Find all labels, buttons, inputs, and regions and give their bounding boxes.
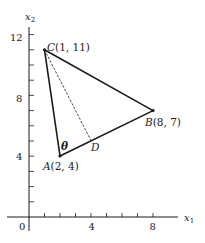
point-a xyxy=(58,154,61,157)
x-axis-label: x1 xyxy=(184,212,194,225)
segment-ab xyxy=(60,111,153,156)
y-tick-label-12: 12 xyxy=(10,32,23,43)
y-axis-label: x2 xyxy=(25,11,35,24)
point-d-label: D xyxy=(90,141,100,153)
point-a-label: A(2, 4) xyxy=(42,160,79,172)
segment-bc xyxy=(45,50,154,111)
point-b-label: B(8, 7) xyxy=(144,116,181,128)
triangle-diagram: 0 4 8 4 8 12 x1 x2 C(1, 11) B(8, 7) A(2,… xyxy=(0,0,205,243)
x-tick-label-8: 8 xyxy=(150,221,156,232)
y-tick-label-8: 8 xyxy=(16,93,22,104)
y-axis-ticks xyxy=(29,35,34,202)
x-tick-label-4: 4 xyxy=(89,221,95,232)
point-c-label: C(1, 11) xyxy=(47,41,90,53)
origin-label: 0 xyxy=(19,221,25,232)
y-tick-label-4: 4 xyxy=(16,151,22,162)
x-axis-ticks xyxy=(45,213,154,217)
point-b xyxy=(151,109,154,112)
point-c xyxy=(43,48,46,51)
angle-theta-label: θ xyxy=(61,140,68,152)
